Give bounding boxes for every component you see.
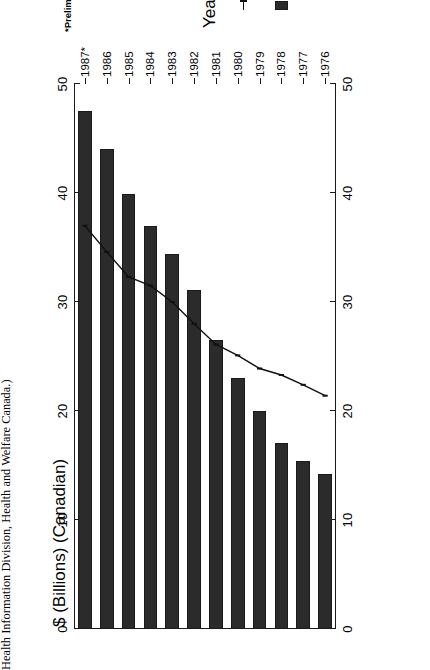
line-point-marker bbox=[279, 374, 284, 376]
legend-item-current-dollars: Current Dollars bbox=[269, 0, 293, 10]
value-axis-tick-label: 20 bbox=[55, 404, 70, 419]
plot-area: 50403020100 50403020100 1987*19861985198… bbox=[74, 29, 336, 629]
line-point-marker bbox=[82, 225, 87, 227]
category-axis-label: 1978 bbox=[275, 51, 287, 77]
category-axis-label: 1980 bbox=[232, 51, 244, 77]
line-point-marker bbox=[213, 344, 218, 346]
line-point-marker bbox=[257, 368, 262, 370]
value-axis-tick-label: 40 bbox=[55, 186, 70, 201]
line-series-1981-dollars bbox=[74, 84, 336, 629]
legend-item-1981-dollars: 1981 Dollars bbox=[231, 0, 255, 10]
line-point-marker bbox=[301, 384, 306, 386]
value-axis-tick-label: 10 bbox=[55, 513, 70, 528]
category-axis-label: 1985 bbox=[123, 51, 135, 77]
chart-legend: 1981 Dollars Current Dollars bbox=[231, 0, 307, 10]
category-axis-label: 1986 bbox=[101, 51, 113, 77]
value-axis-tick-label: 0 bbox=[55, 625, 70, 632]
category-axis-label: 1976 bbox=[319, 51, 331, 77]
value-axis-tick-label: 40 bbox=[340, 186, 355, 201]
line-point-marker bbox=[192, 323, 197, 325]
line-point-marker bbox=[235, 354, 240, 356]
value-axis-tick-label: 30 bbox=[340, 295, 355, 310]
line-point-marker bbox=[323, 395, 328, 397]
filled-square-icon bbox=[275, 1, 288, 10]
chart-rotated-stage: $ (Billions) (Canadian) 50403020100 5040… bbox=[50, 29, 380, 629]
value-axis-tick-label: 10 bbox=[340, 513, 355, 528]
value-axis-tick-label: 50 bbox=[55, 77, 70, 92]
category-axis-label: 1977 bbox=[297, 51, 309, 77]
preliminary-estimates-footnote: *Preliminary Estimates bbox=[62, 0, 73, 32]
value-axis-tick-label: 0 bbox=[340, 625, 355, 632]
line-path bbox=[85, 226, 325, 396]
line-point-marker bbox=[104, 251, 109, 253]
line-point-marker bbox=[170, 301, 175, 303]
line-point-marker bbox=[126, 276, 131, 278]
category-axis-label: 1982 bbox=[188, 51, 200, 77]
category-axis-label: 1987* bbox=[79, 47, 91, 77]
line-marker-icon bbox=[238, 0, 249, 10]
category-axis-title: Year bbox=[200, 0, 220, 28]
value-axis-title: $ (Billions) (Canadian) bbox=[50, 459, 70, 627]
value-axis-tick-label: 30 bbox=[55, 295, 70, 310]
category-axis-label: 1984 bbox=[144, 51, 156, 77]
category-axis-label: 1979 bbox=[254, 51, 266, 77]
category-axis-label: 1981 bbox=[210, 51, 222, 77]
line-point-marker bbox=[148, 285, 153, 287]
category-axis-label: 1983 bbox=[166, 51, 178, 77]
figure-caption: Figure 5a: Total health expenditures, Ca… bbox=[0, 330, 16, 670]
value-axis-tick-label: 20 bbox=[340, 404, 355, 419]
value-axis-tick-label: 50 bbox=[340, 77, 355, 92]
